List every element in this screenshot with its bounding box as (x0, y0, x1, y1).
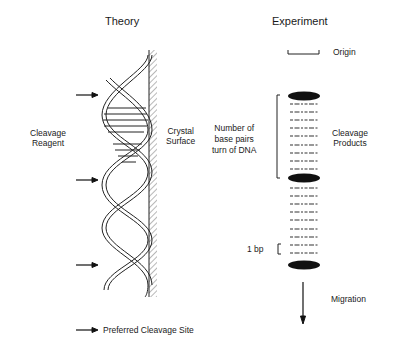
cleavage-arrows (76, 93, 98, 268)
one-bp-bracket (278, 244, 281, 254)
gel-lane (288, 92, 320, 270)
theory-title: Theory (105, 15, 139, 27)
cleavage-products-label: Cleavage Products (332, 128, 368, 148)
base-pair-rungs (103, 108, 148, 162)
crystal-surface (149, 50, 157, 297)
legend-arrow-icon (76, 328, 98, 333)
experiment-title: Experiment (272, 15, 328, 27)
origin-label: Origin (333, 47, 356, 57)
crystal-surface-label: Crystal Surface (166, 126, 195, 146)
base-pairs-per-turn-label: Number of base pairs turn of DNA (212, 123, 256, 156)
origin-bracket (288, 50, 319, 54)
cleavage-reagent-label: Cleavage Reagent (30, 128, 66, 148)
dna-helix (102, 55, 152, 297)
migration-label: Migration (331, 294, 366, 304)
legend-label: Preferred Cleavage Site (103, 325, 194, 335)
one-bp-label: 1 bp (247, 244, 264, 254)
turn-bracket (277, 95, 280, 178)
migration-arrow (301, 282, 306, 324)
